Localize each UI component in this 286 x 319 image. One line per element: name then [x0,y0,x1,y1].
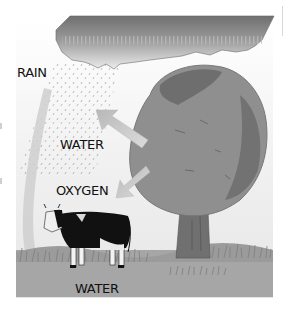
edge-mark [0,178,2,184]
label-water-from-tree: WATER [60,138,104,151]
label-water-ground: WATER [75,282,119,295]
edge-mark [0,123,2,129]
label-oxygen: OXYGEN [56,184,108,197]
edge-line [282,6,283,36]
label-rain: RAIN [17,66,47,79]
water-oxygen-cycle-diagram: RAIN WATER OXYGEN WATER [0,0,286,319]
diagram-illustration [0,0,286,319]
tree-trunk [176,210,210,258]
ground [16,243,273,297]
